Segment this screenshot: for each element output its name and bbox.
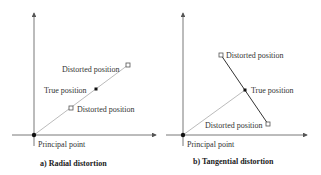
distorted-inner-marker <box>69 106 73 110</box>
label-principal-point: Principal point <box>187 140 235 149</box>
caption-radial: a) Radial distortion <box>40 159 107 168</box>
label-true-position: True position <box>44 86 87 95</box>
panel-tangential-distortion: Distorted position True position Distort… <box>166 13 307 166</box>
distorted-lower-marker <box>266 122 270 126</box>
distortion-diagram: Distorted position True position Distort… <box>0 0 321 175</box>
caption-tangential: b) Tangential distortion <box>193 157 274 166</box>
principal-point-marker <box>32 133 36 137</box>
radial-line <box>34 65 128 135</box>
true-position-marker <box>95 88 98 91</box>
label-true-position: True position <box>251 86 294 95</box>
panel-radial-distortion: Distorted position True position Distort… <box>12 13 156 168</box>
distorted-outer-marker <box>126 63 130 67</box>
label-distorted-upper: Distorted position <box>226 51 284 60</box>
label-distorted-outer: Distorted position <box>62 65 120 74</box>
label-principal-point: Principal point <box>38 140 86 149</box>
distorted-upper-marker <box>219 53 223 57</box>
label-distorted-lower: Distorted position <box>205 121 263 130</box>
principal-point-marker <box>181 133 185 137</box>
true-position-marker <box>244 89 247 92</box>
label-distorted-inner: Distorted position <box>77 105 135 114</box>
